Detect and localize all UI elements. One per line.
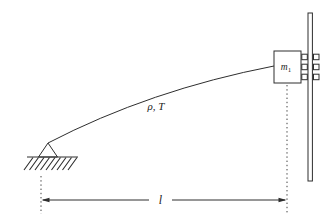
arrow-right-icon bbox=[279, 198, 287, 203]
roller-left-bottom-icon bbox=[302, 74, 308, 80]
roller-left-top-icon bbox=[302, 54, 308, 60]
roller-right-top-icon bbox=[314, 54, 320, 60]
labels-group: ρ, T m1 l bbox=[147, 62, 292, 208]
pin-support-icon bbox=[39, 143, 58, 157]
linework-group bbox=[24, 13, 319, 214]
mechanics-diagram: ρ, T m1 l bbox=[0, 0, 332, 222]
roller-left-middle-icon bbox=[302, 64, 308, 70]
figure-canvas: ρ, T m1 l bbox=[0, 0, 332, 222]
roller-right-bottom-icon bbox=[314, 74, 320, 80]
ground-hatching-icon bbox=[24, 158, 77, 171]
arrow-left-icon bbox=[42, 198, 50, 203]
mass-subscript-text: 1 bbox=[288, 66, 292, 74]
cable-properties-label: ρ, T bbox=[147, 100, 166, 112]
vertical-rail bbox=[308, 13, 312, 181]
length-label: l bbox=[159, 193, 163, 207]
roller-right-middle-icon bbox=[314, 64, 320, 70]
